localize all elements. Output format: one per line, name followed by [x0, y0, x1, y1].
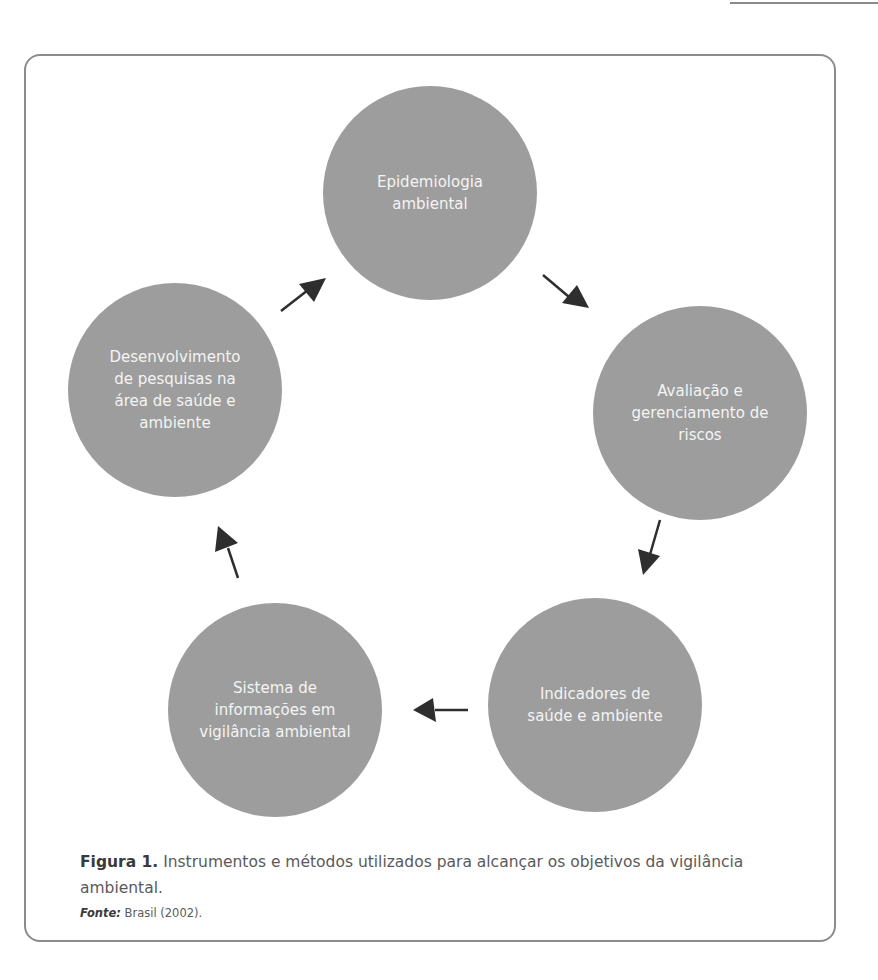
- arrow-desenvolvimento-to-epidemiologia: [281, 278, 326, 311]
- arrow-avaliacao-to-indicadores: [638, 520, 660, 575]
- figure-caption: Figura 1. Instrumentos e métodos utiliza…: [80, 849, 800, 901]
- caption-label: Figura 1.: [80, 853, 158, 871]
- figure-source: Fonte: Brasil (2002).: [80, 906, 202, 920]
- arrows-layer: [0, 0, 878, 820]
- arrow-epidemiologia-to-avaliacao: [543, 275, 589, 308]
- caption-text: Instrumentos e métodos utilizados para a…: [80, 853, 743, 897]
- source-text: Brasil (2002).: [121, 906, 202, 920]
- arrow-indicadores-to-sistema: [413, 698, 468, 722]
- cycle-diagram: Epidemiologia ambiental Avaliação e gere…: [0, 0, 878, 820]
- source-label: Fonte:: [80, 906, 121, 920]
- arrow-sistema-to-desenvolvimento: [215, 526, 238, 578]
